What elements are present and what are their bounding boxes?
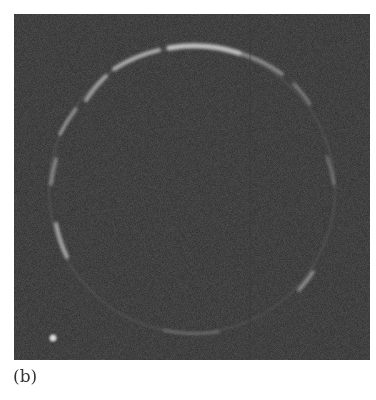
noise-texture — [14, 14, 370, 360]
micrograph-image — [14, 14, 370, 360]
panel-label: (b) — [13, 366, 37, 386]
bright-dot — [50, 335, 57, 342]
ring-image-svg — [14, 14, 370, 360]
